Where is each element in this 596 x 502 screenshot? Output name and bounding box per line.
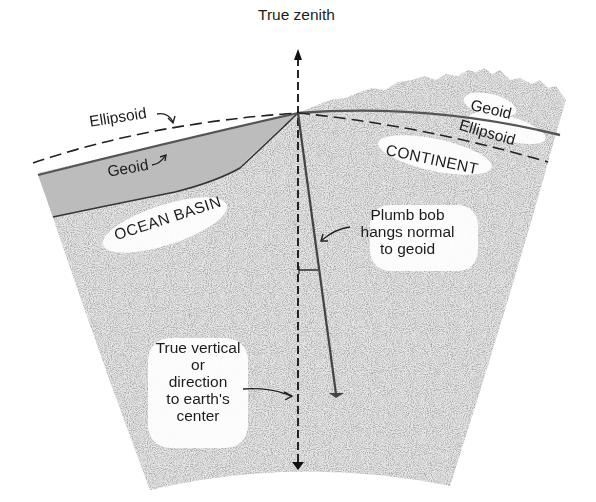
diagram-canvas [0, 0, 596, 502]
plumb-bob-line-1: Plumb bob [350, 206, 465, 223]
true-vertical-line-2: or [148, 356, 248, 373]
true-zenith-label: True zenith [258, 6, 335, 23]
zenith-arrowhead-icon [294, 49, 302, 60]
true-vertical-line-3: direction [148, 373, 248, 390]
true-vertical-caption: True vertical or direction to earth's ce… [148, 339, 248, 424]
true-vertical-line-4: to earth's [148, 390, 248, 407]
true-vertical-line-1: True vertical [148, 339, 248, 356]
true-vertical-line-5: center [148, 407, 248, 424]
plumb-bob-line-2: hangs normal [350, 223, 465, 240]
plumb-bob-caption: Plumb bob hangs normal to geoid [350, 206, 465, 257]
plumb-bob-line-3: to geoid [350, 240, 465, 257]
geoid-ellipsoid-diagram: True zenith Ellipsoid Geoid OCEAN BASIN … [0, 0, 596, 502]
